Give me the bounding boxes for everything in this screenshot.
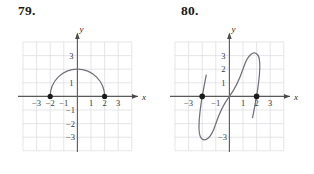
y-tick-label-1-80: 1 bbox=[221, 78, 225, 88]
y-tick-label-2-80: 2 bbox=[221, 64, 225, 74]
x-axis-name-79: x bbox=[141, 92, 146, 102]
problem-79: 79. bbox=[0, 0, 157, 174]
x-tick-label-neg1-80: −1 bbox=[211, 98, 220, 108]
y-axis-name-80: y bbox=[231, 24, 236, 34]
x-tick-label-1-79: 1 bbox=[89, 98, 93, 108]
axes-79 bbox=[18, 34, 138, 152]
x-axis-arrow-79 bbox=[132, 94, 138, 99]
x-tick-label-2-79: 2 bbox=[102, 98, 106, 108]
x-tick-label-3-80: 3 bbox=[268, 98, 272, 108]
x-tick-label-neg2-79: −2 bbox=[46, 98, 55, 108]
x-axis-name-80: x bbox=[293, 92, 298, 102]
graph-80: −3 −1 1 2 3 3 2 1 −3 x y bbox=[157, 0, 314, 174]
y-tick-label-neg3-79: −3 bbox=[66, 132, 75, 142]
y-axis-name-79: y bbox=[79, 24, 84, 34]
y-tick-label-3-79: 3 bbox=[69, 51, 73, 61]
x-tick-label-2-80: 2 bbox=[254, 98, 258, 108]
x-axis-arrow-80 bbox=[284, 94, 290, 99]
figure-page: 79. bbox=[0, 0, 314, 174]
graph-79: −3 −2 −1 1 2 3 3 1 −1 −2 −3 x y bbox=[0, 0, 157, 174]
x-tick-label-1-80: 1 bbox=[241, 98, 245, 108]
endpoint-dot-left-80 bbox=[199, 94, 205, 100]
axes-80 bbox=[170, 34, 290, 152]
y-tick-label-3-80: 3 bbox=[221, 51, 225, 61]
x-tick-label-neg3-80: −3 bbox=[184, 98, 193, 108]
x-tick-label-3-79: 3 bbox=[116, 98, 120, 108]
y-tick-label-neg2-79: −2 bbox=[66, 119, 75, 129]
y-tick-label-1-79: 1 bbox=[69, 78, 73, 88]
y-tick-label-neg1-79: −1 bbox=[66, 105, 75, 115]
x-tick-label-neg3-79: −3 bbox=[32, 98, 41, 108]
y-tick-label-neg3-80: −3 bbox=[218, 132, 227, 142]
problem-80: 80. bbox=[157, 0, 314, 174]
